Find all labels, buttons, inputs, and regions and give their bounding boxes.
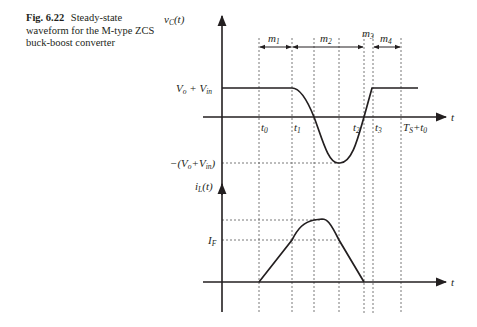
il-plot: iL(t) t IF [195,180,455,312]
il-axis-label: iL(t) [195,180,213,194]
interval-m2-label: m2 [320,32,332,46]
vc-waveform [222,88,418,163]
time-marker-lines [259,35,401,313]
t0-label: t0 [261,121,268,135]
interval-m3-label: m3 [362,27,374,41]
waveform-diagram: m1 m2 m3 m4 vC(t) t Vo + Vin −(Vo+Vin) t… [0,0,477,327]
if-level-label: IF [207,234,217,248]
t1-label: t1 [294,121,301,135]
interval-m1-label: m1 [268,32,280,46]
interval-m4-label: m4 [380,32,392,46]
vc-plot: vC(t) t Vo + Vin −(Vo+Vin) t0 t1 t2 t3 T… [164,13,455,195]
level-high-label: Vo + Vin [176,82,212,96]
vc-axis-label: vC(t) [164,13,185,27]
t3-label: t3 [375,121,382,135]
ts-t0-label: TS+t0 [403,121,427,135]
level-low-label: −(Vo+Vin) [170,157,216,171]
vc-time-axis-label: t [451,111,455,123]
level-lines [222,163,339,240]
il-time-axis-label: t [451,276,455,288]
il-waveform [259,219,364,282]
t2-label: t2 [353,121,360,135]
